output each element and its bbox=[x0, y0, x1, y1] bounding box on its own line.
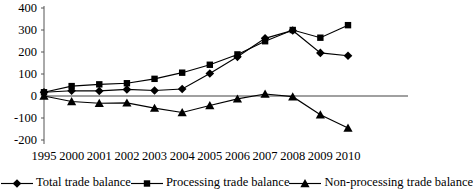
data-point-triangle bbox=[343, 124, 352, 132]
data-point-diamond bbox=[95, 87, 104, 96]
data-point-triangle bbox=[316, 110, 325, 118]
square-marker-icon bbox=[131, 176, 163, 189]
y-axis-tick-label: 200 bbox=[3, 46, 37, 59]
chart-legend: Total trade balanceProcessing trade bala… bbox=[0, 172, 421, 192]
series-diamond bbox=[40, 26, 353, 96]
data-point-diamond bbox=[344, 51, 353, 60]
diamond-marker-icon bbox=[1, 176, 33, 189]
data-point-square bbox=[207, 62, 213, 68]
legend-label: Total trade balance bbox=[36, 176, 131, 189]
triangle-marker-icon bbox=[289, 176, 321, 189]
data-point-triangle bbox=[260, 90, 269, 98]
series-line-1 bbox=[44, 25, 348, 92]
data-point-square bbox=[68, 83, 74, 89]
data-point-square bbox=[124, 80, 130, 86]
data-point-square bbox=[96, 81, 102, 87]
data-point-square bbox=[317, 35, 323, 41]
data-point-diamond bbox=[178, 85, 187, 94]
data-point-square bbox=[234, 51, 240, 57]
series-line-0 bbox=[44, 30, 348, 92]
y-axis-tick-label: -100 bbox=[3, 112, 37, 125]
y-axis-tick-label: -200 bbox=[3, 134, 37, 147]
data-point-square bbox=[151, 76, 157, 82]
data-point-square bbox=[262, 38, 268, 44]
legend-entry: Non-processing trade balance bbox=[289, 176, 473, 189]
data-point-diamond bbox=[206, 69, 215, 78]
data-point-diamond bbox=[150, 86, 159, 95]
series-line-2 bbox=[44, 94, 348, 128]
legend-key-marker bbox=[13, 179, 22, 188]
x-axis-tick-label: 2010 bbox=[331, 150, 365, 163]
legend-entry: Total trade balance bbox=[1, 176, 131, 189]
data-point-square bbox=[179, 69, 185, 75]
y-axis-tick-label: 0 bbox=[3, 90, 37, 103]
y-axis-tick-label: 400 bbox=[3, 2, 37, 15]
legend-label: Non-processing trade balance bbox=[324, 176, 473, 189]
data-point-square bbox=[290, 27, 296, 33]
data-point-square bbox=[345, 22, 351, 28]
legend-key-marker bbox=[144, 180, 150, 186]
legend-label: Processing trade balance bbox=[166, 176, 290, 189]
y-axis-tick-label: 300 bbox=[3, 24, 37, 37]
series-square bbox=[41, 22, 351, 96]
y-axis-tick-label: 100 bbox=[3, 68, 37, 81]
legend-entry: Processing trade balance bbox=[131, 176, 290, 189]
